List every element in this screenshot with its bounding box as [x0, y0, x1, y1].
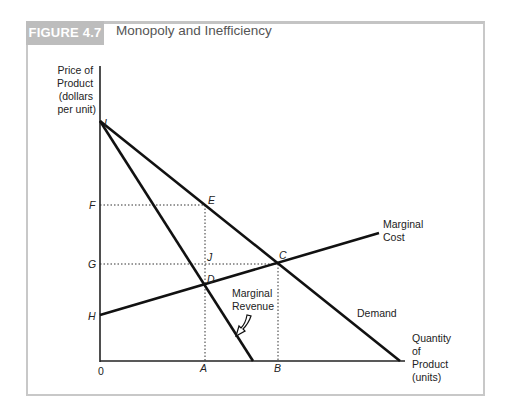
marginal-cost-label: Marginal Cost: [383, 218, 426, 243]
demand-label: Demand: [357, 307, 397, 319]
point-g-label: G: [88, 258, 96, 270]
marginal-revenue-curve: [100, 121, 253, 361]
point-b-label: B: [274, 362, 281, 374]
point-d-label: D: [207, 273, 215, 285]
point-j-label: J: [206, 251, 213, 263]
point-e-label: E: [208, 194, 216, 206]
point-a-label: A: [199, 362, 207, 374]
y-axis-label: Price of Product (dollars per unit): [57, 64, 96, 115]
monopoly-diagram: Price of Product (dollars per unit) Quan…: [0, 0, 512, 419]
x-axis-label: Quantity of Product (units): [412, 332, 454, 383]
guide-lines: [100, 205, 278, 361]
point-f-label: F: [89, 199, 96, 211]
origin-label: 0: [98, 365, 104, 377]
point-h-label: H: [88, 310, 96, 322]
point-c-label: C: [279, 249, 287, 261]
point-i-label: I: [104, 117, 107, 129]
curved-arrow-icon: [236, 315, 251, 336]
marginal-revenue-label: Marginal Revenue: [232, 287, 275, 312]
